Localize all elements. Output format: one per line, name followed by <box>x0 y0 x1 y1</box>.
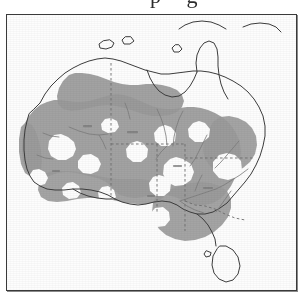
map-frame <box>6 14 297 291</box>
page-root: p g <box>0 0 305 299</box>
australia-map-svg <box>7 15 296 290</box>
clipped-caption-strip: p g <box>0 0 305 13</box>
caption-fragment-text: p g <box>150 0 208 9</box>
